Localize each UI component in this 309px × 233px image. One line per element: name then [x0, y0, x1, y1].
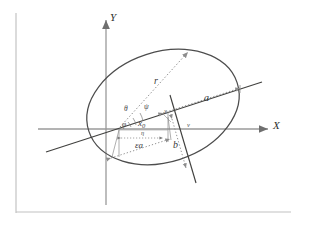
figure-frame — [16, 13, 291, 213]
semi-major-label: a — [204, 93, 209, 103]
focal-offset-text: εa — [135, 140, 143, 150]
radius-label: r — [154, 76, 158, 86]
radius-vector — [120, 52, 188, 127]
angle-phi-label: φ — [122, 121, 126, 129]
focal-offset-label: εa — [135, 141, 143, 150]
geometry-figure: X Y r a b εa x0 θ ψ φ χ η ν — [0, 0, 309, 233]
angle-nu-label: ν — [187, 122, 190, 129]
angle-eta-label: η — [141, 130, 144, 137]
ellipse-curve — [72, 31, 254, 184]
diagram-canvas — [0, 0, 309, 233]
x-naught-label: x0 — [138, 119, 145, 129]
semi-minor-label: b — [173, 140, 178, 150]
x-axis-label: X — [273, 120, 280, 131]
angle-chi-label: χ — [164, 108, 167, 115]
angle-psi-label: ψ — [144, 103, 149, 111]
coordinate-axes — [38, 20, 268, 205]
major-axis-line — [46, 82, 262, 152]
angle-theta-label: θ — [124, 105, 128, 113]
x-naught-subscript: 0 — [142, 122, 145, 129]
y-axis-label: Y — [110, 12, 116, 23]
